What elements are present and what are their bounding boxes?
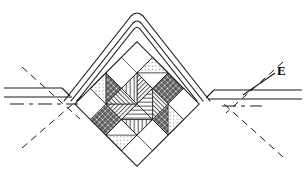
tile-grid (75, 42, 199, 166)
technical-drawing (0, 0, 306, 195)
construction-line-nw (22, 67, 80, 119)
label-E: E (277, 64, 286, 77)
label-leader-line (243, 73, 275, 95)
construction-line-se (224, 104, 283, 157)
diagram-canvas: E (0, 0, 306, 195)
